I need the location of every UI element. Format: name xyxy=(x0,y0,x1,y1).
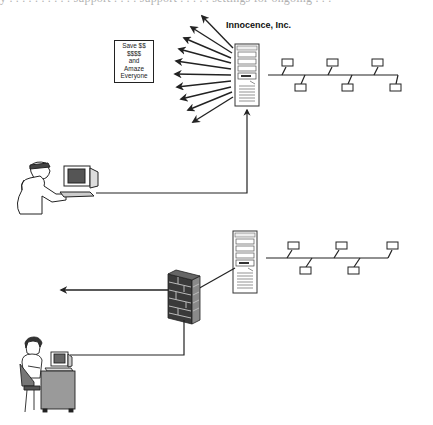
callout-line: Everyone xyxy=(115,72,153,80)
network-diagram xyxy=(0,0,433,425)
callout-line: Save $$ xyxy=(115,42,153,50)
company-label: Innocence, Inc. xyxy=(226,20,291,30)
user-workstation-icon xyxy=(20,337,75,412)
firewall-server-link xyxy=(196,268,235,290)
attacker-workstation-icon xyxy=(17,162,98,214)
company-server-icon xyxy=(235,44,259,106)
top-lan-bus xyxy=(268,67,398,84)
user-firewall-link xyxy=(70,320,184,355)
callout-line: $$$$ xyxy=(115,50,153,58)
attacker-connection xyxy=(96,110,247,193)
bottom-lan-bus xyxy=(266,250,392,267)
firewall-icon xyxy=(168,270,200,324)
server-icon xyxy=(233,231,257,293)
broadcast-arrows xyxy=(175,16,233,122)
callout-line: and xyxy=(115,57,153,65)
spam-callout-box: Save $$ $$$$ and Amaze Everyone xyxy=(114,40,154,83)
callout-line: Amaze xyxy=(115,65,153,73)
